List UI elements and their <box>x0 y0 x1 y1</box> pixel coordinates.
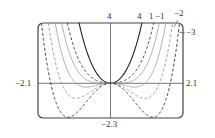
curve-label-minus2: −2 <box>174 9 184 18</box>
curve-label-4: 4 <box>137 12 142 21</box>
curve-label-1: 1 <box>149 12 154 21</box>
y-max-label: 4 <box>107 12 112 21</box>
y-min-label: −2.3 <box>101 120 117 129</box>
x-max-label: 2.1 <box>186 79 197 88</box>
x-min-label: −2.1 <box>15 79 31 88</box>
curve-label-minus1: −1 <box>155 12 165 21</box>
arrow-minus3 <box>178 32 185 33</box>
curve-label-minus3: −3 <box>186 28 196 37</box>
